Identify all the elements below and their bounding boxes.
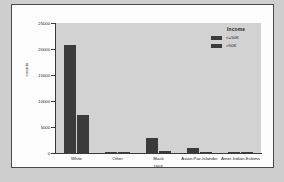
bar xyxy=(200,152,212,153)
x-tick-label: Amer-Indian-Eskimo xyxy=(214,156,267,162)
bar xyxy=(118,152,130,153)
y-tick-label: 25000 xyxy=(12,21,57,26)
y-tick-label: 5000 xyxy=(12,125,57,130)
bar xyxy=(64,45,76,153)
x-axis-title: race xyxy=(56,163,261,168)
bar xyxy=(241,152,253,153)
legend-entry: <=50K xyxy=(205,35,267,40)
bar xyxy=(159,151,171,153)
bar xyxy=(77,115,89,153)
bar xyxy=(228,152,240,153)
bar xyxy=(105,152,117,153)
y-tick-label: 10000 xyxy=(12,99,57,104)
y-axis-title: counts xyxy=(24,50,29,90)
y-axis-line xyxy=(55,23,56,154)
legend-entries: <=50K>50K xyxy=(205,35,267,48)
figure-card: 0500010000150002000025000 counts WhiteOt… xyxy=(11,4,274,168)
legend-label: >50K xyxy=(226,43,236,48)
legend-entry: >50K xyxy=(205,43,267,48)
legend-swatch xyxy=(211,44,222,48)
bar xyxy=(146,138,158,153)
legend-swatch xyxy=(211,36,222,40)
legend-title: Income xyxy=(205,27,267,32)
y-tick-label: 15000 xyxy=(12,73,57,78)
legend: Income <=50K>50K xyxy=(205,27,267,51)
chart-screenshot: 0500010000150002000025000 counts WhiteOt… xyxy=(0,0,284,182)
x-axis-line xyxy=(55,153,262,154)
bar xyxy=(187,148,199,153)
legend-label: <=50K xyxy=(226,35,239,40)
y-tick-label: 0 xyxy=(12,151,57,156)
y-tick-label: 20000 xyxy=(12,47,57,52)
